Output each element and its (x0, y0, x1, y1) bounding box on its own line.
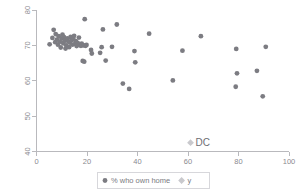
data-point (234, 47, 239, 52)
y-tick-label: 60 (23, 77, 32, 85)
x-tick-label: 60 (184, 157, 192, 166)
x-tick-label: 80 (234, 157, 242, 166)
data-point (84, 43, 89, 48)
data-point (50, 36, 55, 41)
data-point (198, 34, 203, 39)
data-point (180, 48, 185, 53)
scatter-chart-figure: 4050607080 020406080100 DC % who own hom… (0, 0, 307, 194)
data-point (127, 86, 132, 91)
data-point (233, 84, 238, 89)
data-point (82, 59, 87, 64)
y-tick-label: 50 (23, 112, 32, 120)
data-point (263, 44, 268, 49)
x-tick-label: 100 (283, 157, 296, 166)
x-tick-label: 20 (83, 157, 91, 166)
data-point (77, 35, 82, 40)
data-point (170, 78, 175, 83)
data-point (120, 81, 125, 86)
x-tick-label: 40 (133, 157, 141, 166)
data-point (110, 44, 115, 49)
data-point (99, 45, 104, 50)
data-point (235, 71, 240, 76)
point-annotations: DC (196, 137, 210, 148)
x-tick-label: 0 (34, 157, 38, 166)
chart-legend[interactable]: % who own homey (98, 173, 210, 189)
chart-canvas: 4050607080 020406080100 DC % who own hom… (0, 0, 307, 194)
y-tick-label: 70 (23, 41, 32, 49)
data-point (47, 42, 52, 47)
data-point (103, 58, 108, 63)
data-point (133, 60, 138, 65)
data-point (132, 49, 137, 54)
legend-marker-0 (103, 178, 108, 183)
data-point (98, 50, 103, 55)
y-tick-label: 40 (23, 147, 32, 155)
y-tick-label: 80 (23, 6, 32, 14)
data-point (51, 27, 56, 32)
data-point (147, 31, 152, 36)
data-point (72, 33, 77, 38)
data-point (260, 94, 265, 99)
data-point (255, 68, 260, 73)
data-point (82, 17, 87, 22)
legend-label-1[interactable]: y (188, 176, 192, 185)
data-point-label: DC (196, 137, 210, 148)
data-point (114, 22, 119, 27)
data-point (89, 51, 94, 56)
data-point (101, 27, 106, 32)
data-point (58, 45, 63, 50)
legend-label-0[interactable]: % who own home (111, 176, 170, 185)
